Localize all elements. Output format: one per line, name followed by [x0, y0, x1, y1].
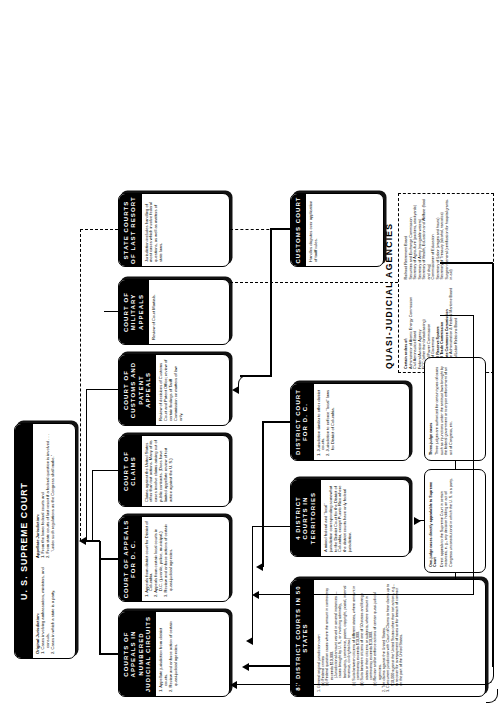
- supreme-court-title: U. S. SUPREME COURT: [15, 424, 33, 658]
- connector-territories-bus: [252, 526, 253, 641]
- connector-customs-bus: [270, 229, 272, 377]
- connector-qja-bottom-bus: [492, 263, 494, 667]
- connector-ccpa-riser: [86, 389, 118, 390]
- customs-court-body: Handles disputes over application of tar…: [306, 194, 322, 266]
- arrow-qja-to-coadc: [252, 591, 259, 599]
- onejudge-note: One-judge cases directly appealable to S…: [424, 469, 486, 573]
- courts-of-appeals-circuits-title: COURTS OF APPEALS IN NUMBERED JUDICIAL C…: [119, 612, 156, 696]
- connector-dcdc-bus: [262, 422, 264, 567]
- connector-customs-riser: [270, 228, 292, 230]
- state-courts-title: STATE COURTS OF LAST RESORT: [119, 194, 142, 266]
- connector-state-courts-dashed-riser: [80, 229, 118, 230]
- military-appeals-body: Review of Court Martials.: [149, 280, 160, 344]
- ccpa-body: Review of decisions of Customs Court and…: [156, 355, 186, 425]
- box-court-of-military-appeals[interactable]: COURT OF MILITARY APPEALS Review of Cour…: [118, 279, 230, 345]
- territories-body: A mixed federal and "local" jurisdiction…: [321, 480, 356, 556]
- connector-circuits-to-supreme: [100, 653, 118, 655]
- district-court-dc-title: DISTRICT COURT FOR D. C.: [291, 384, 314, 460]
- box-court-of-customs-and-patent-appeals[interactable]: COURT OF CUSTOMS AND PATENT APPEALS Revi…: [118, 354, 230, 426]
- ccpa-title: COURT OF CUSTOMS AND PATENT APPEALS: [119, 355, 156, 425]
- box-supreme-court[interactable]: U. S. SUPREME COURT Original Jurisdictio…: [14, 423, 76, 659]
- connector-notes-bus-2: [455, 461, 456, 469]
- connector-claims-riser: [92, 470, 118, 471]
- coa-dc-item-3: 3. Review and enforce actions of certain…: [164, 521, 174, 597]
- qja-c2-4: Secretary of Health, Education and Welfa…: [422, 197, 431, 280]
- threejudge-note: Three-judge cases Three judges are autho…: [424, 357, 486, 461]
- box-courts-of-appeals-circuits[interactable]: COURTS OF APPEALS IN NUMBERED JUDICIAL C…: [118, 611, 230, 697]
- box-state-courts-of-last-resort[interactable]: STATE COURTS OF LAST RESORT Jurisdiction…: [118, 193, 230, 267]
- connector-military-stub: [104, 311, 118, 312]
- court-of-claims-title: COURT OF CLAIMS: [119, 436, 142, 506]
- connector-qja-dashed: [230, 282, 398, 283]
- military-appeals-title: COURT OF MILITARY APPEALS: [119, 280, 149, 344]
- onejudge-body: Direct appeals to the Supreme Court in c…: [440, 475, 453, 567]
- box-customs-court[interactable]: CUSTOMS COURT Handles disputes over appl…: [290, 193, 384, 267]
- customs-court-title: CUSTOMS COURT: [291, 194, 306, 266]
- connector-ccpa-bus: [86, 389, 87, 542]
- arrow-territories-to-circuits: [246, 637, 253, 645]
- connector-coa-dc-riser: [100, 558, 118, 560]
- connector-dcdc-riser: [262, 421, 290, 423]
- territories-title: 4 DISTRICT COURTS IN TERRITORIES: [291, 480, 321, 556]
- quasi-judicial-lists: Certain orders of: Administrator of Atom…: [404, 197, 458, 369]
- arrow-direct-appeal: [414, 517, 421, 525]
- connector-qja-riser-right: [440, 262, 493, 264]
- connector-state-courts-dashed-bus: [80, 229, 81, 541]
- connector-territories-riser: [252, 526, 290, 527]
- threejudge-body: Three judges are authorized for certain …: [435, 363, 453, 455]
- quasi-judicial-title: QUASI-JUDICIAL AGENCIES: [384, 189, 394, 369]
- qja-c2-8: Surgeon General (certification for hospi…: [445, 197, 454, 280]
- arrow-dcdc-to-coadc: [256, 563, 263, 571]
- elbow-qja-left: [236, 665, 494, 685]
- connector-qja-mid-riser: [440, 315, 474, 316]
- connector-claims-bus: [92, 470, 93, 542]
- connector-notes-bus: [455, 573, 456, 579]
- box-district-court-dc[interactable]: DISTRICT COURT FOR D. C. 1. Jurisdiction…: [290, 383, 410, 461]
- box-court-of-appeals-dc[interactable]: COURT OF APPEALS FOR D. C. 1. Appeals fr…: [118, 516, 230, 602]
- onejudge-heading: One-judge cases directly appealable to S…: [429, 475, 438, 567]
- bracket-lower-left: [486, 689, 498, 703]
- box-court-of-claims[interactable]: COURT OF CLAIMS Claims against the Unite…: [118, 435, 230, 507]
- dcdc-item-2: 2. Jurisdiction to enforce "local" laws …: [326, 388, 336, 456]
- connector-qja-to-coadc-riser: [258, 594, 474, 595]
- supreme-court-original-2: 2. Cases in which a state is a party.: [51, 566, 56, 654]
- qja-c2-2: Secretary of Agriculture (packers, stock…: [413, 197, 418, 280]
- connector-qja-to-coadc-bus: [473, 315, 474, 595]
- court-of-claims-body: Claims against the United States other t…: [142, 436, 177, 506]
- federal-court-system-chart: U. S. SUPREME COURT Original Jurisdictio…: [0, 0, 503, 707]
- arrow-qja-to-circuits: [230, 681, 237, 689]
- coa-circuits-item-2: 2. Review and enforce action of certain …: [169, 616, 179, 692]
- elbow-customs-ccpa: [238, 375, 252, 391]
- rotated-chart-canvas: U. S. SUPREME COURT Original Jurisdictio…: [0, 0, 503, 707]
- threejudge-heading: Three-judge cases: [429, 363, 433, 455]
- supreme-court-appellate-2: 2. From state courts of last resort if a…: [46, 428, 56, 558]
- box-4-district-courts-territories[interactable]: 4 DISTRICT COURTS IN TERRITORIES A mixed…: [290, 479, 410, 557]
- state-courts-body: Jurisdiction includes handling of most c…: [142, 194, 167, 266]
- court-of-appeals-dc-title: COURT OF APPEALS FOR D. C.: [119, 517, 142, 601]
